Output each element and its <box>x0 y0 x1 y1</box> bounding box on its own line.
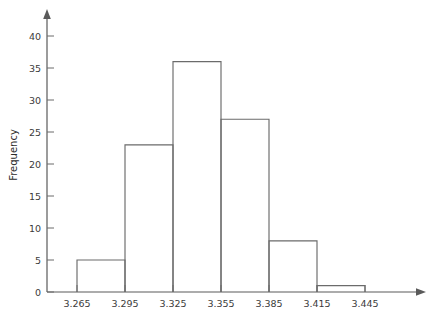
y-tick-label: 10 <box>29 223 41 234</box>
y-tick-label: 15 <box>29 191 41 202</box>
y-tick-label: 40 <box>29 31 41 42</box>
x-axis-tick-labels: 3.265 3.295 3.325 3.355 3.385 3.415 3.44… <box>63 298 378 309</box>
x-tick-label: 3.325 <box>159 298 186 309</box>
histogram-bar <box>77 260 125 292</box>
x-axis-arrow-icon <box>416 288 426 296</box>
histogram-bar <box>221 119 269 292</box>
x-axis <box>47 288 426 296</box>
x-tick-label: 3.355 <box>207 298 234 309</box>
y-axis-ticks <box>47 36 54 292</box>
y-axis-tick-labels: 0 5 10 15 20 25 30 35 40 <box>29 31 41 298</box>
y-axis-title: Frequency <box>8 129 19 181</box>
x-tick-label: 3.445 <box>351 298 378 309</box>
histogram-bar <box>173 62 221 292</box>
x-tick-label: 3.265 <box>63 298 90 309</box>
y-tick-label: 20 <box>29 159 41 170</box>
y-axis <box>43 9 51 292</box>
x-tick-label: 3.295 <box>111 298 138 309</box>
y-tick-label: 0 <box>35 287 41 298</box>
y-tick-label: 5 <box>35 255 41 266</box>
histogram-bar <box>125 145 173 292</box>
y-tick-label: 35 <box>29 63 41 74</box>
y-axis-arrow-icon <box>43 9 51 19</box>
histogram-bars <box>77 62 365 292</box>
histogram-chart: 0 5 10 15 20 25 30 35 40 3.265 3.295 3.3… <box>0 0 435 318</box>
histogram-bar <box>269 241 317 292</box>
x-tick-label: 3.415 <box>303 298 330 309</box>
chart-canvas: 0 5 10 15 20 25 30 35 40 3.265 3.295 3.3… <box>0 0 435 318</box>
histogram-bar <box>317 286 365 292</box>
y-tick-label: 25 <box>29 127 41 138</box>
y-tick-label: 30 <box>29 95 41 106</box>
x-tick-label: 3.385 <box>255 298 282 309</box>
